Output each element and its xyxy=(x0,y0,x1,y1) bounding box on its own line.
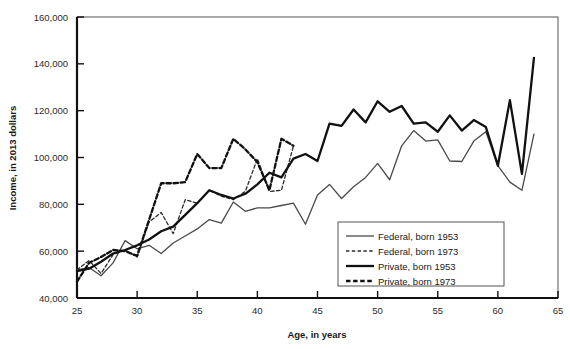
y-tick-label: 160,000 xyxy=(34,12,68,23)
legend-label-1: Federal, born 1953 xyxy=(378,231,458,242)
x-tick-label: 25 xyxy=(72,305,83,316)
legend-label-2: Federal, born 1973 xyxy=(378,246,458,257)
x-tick-label: 65 xyxy=(553,305,564,316)
x-tick-label: 45 xyxy=(312,305,323,316)
x-tick-label: 40 xyxy=(252,305,263,316)
x-tick-label: 30 xyxy=(132,305,143,316)
y-tick-label: 40,000 xyxy=(39,293,68,304)
x-tick-label: 35 xyxy=(192,305,203,316)
y-tick-label: 60,000 xyxy=(39,246,68,257)
y-tick-label: 120,000 xyxy=(34,105,68,116)
y-tick-label: 140,000 xyxy=(34,58,68,69)
income-by-age-line-chart: 40,00060,00080,000100,000120,000140,0001… xyxy=(0,0,570,349)
y-tick-label: 100,000 xyxy=(34,152,68,163)
x-tick-label: 50 xyxy=(372,305,383,316)
x-tick-label: 60 xyxy=(493,305,504,316)
y-tick-label: 80,000 xyxy=(39,199,68,210)
legend-label-4: Private, born 1973 xyxy=(378,276,456,287)
chart-container: 40,00060,00080,000100,000120,000140,0001… xyxy=(0,0,570,349)
x-tick-label: 55 xyxy=(432,305,443,316)
chart-legend: Federal, born 1953Federal, born 1973Priv… xyxy=(338,222,504,287)
y-axis-title: Income, in 2013 dollars xyxy=(7,106,18,211)
x-axis-title: Age, in years xyxy=(287,329,346,340)
legend-label-3: Private, born 1953 xyxy=(378,261,456,272)
chart-background xyxy=(0,0,570,349)
